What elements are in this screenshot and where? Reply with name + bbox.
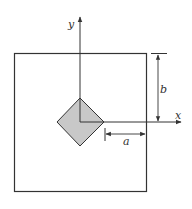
y-axis-label: y <box>67 18 75 31</box>
diagram: y x b a <box>0 0 192 209</box>
dim-a-label: a <box>123 135 130 148</box>
dim-b-label: b <box>160 83 167 96</box>
x-axis-label: x <box>175 109 182 122</box>
